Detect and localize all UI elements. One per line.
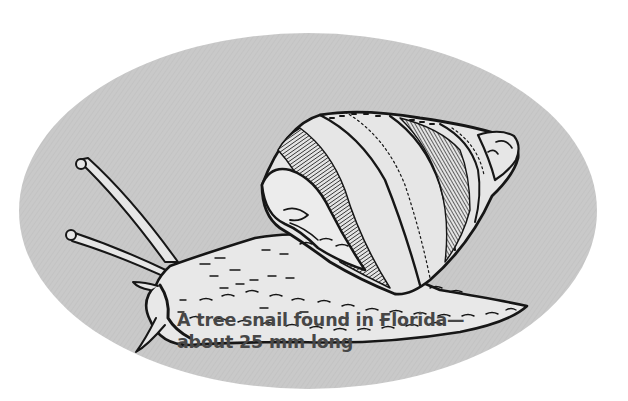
caption: A tree snail found in Florida— about 25 … — [177, 309, 464, 353]
caption-line-2: about 25 mm long — [177, 331, 464, 353]
caption-line-1: A tree snail found in Florida— — [177, 309, 464, 331]
